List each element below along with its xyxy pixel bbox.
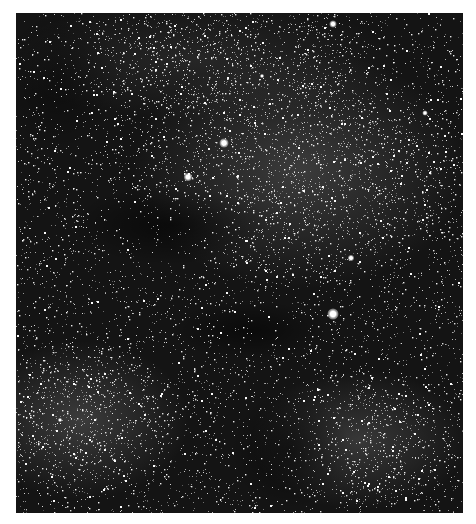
bright-star xyxy=(260,74,264,78)
bright-star xyxy=(348,255,354,261)
bright-star xyxy=(423,111,428,116)
star-field xyxy=(16,13,463,513)
starfield-photo xyxy=(16,13,463,513)
bright-star xyxy=(184,173,192,181)
bright-star xyxy=(58,418,62,422)
bright-star xyxy=(330,21,337,28)
bright-star xyxy=(328,309,339,320)
bright-star xyxy=(220,139,229,148)
